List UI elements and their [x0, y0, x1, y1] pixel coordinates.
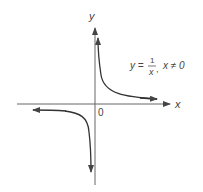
equation-label: y = 1 x , x ≠ 0 [129, 56, 185, 77]
equation-condition: x ≠ 0 [162, 60, 185, 71]
x-axis-label: x [174, 98, 181, 110]
origin-label: 0 [98, 107, 104, 118]
curve-branch-quadrant-1-right [140, 98, 157, 99]
y-axis-label: y [88, 10, 96, 22]
curve-branch-quadrant-3-left [33, 110, 66, 111]
equation-lhs: y = [129, 60, 144, 71]
curve-branch-quadrant-3 [65, 111, 91, 172]
equation-numerator: 1 [150, 56, 155, 65]
equation-denominator: x [148, 67, 154, 77]
reciprocal-function-graph: y x 0 y = 1 x , x ≠ 0 [0, 0, 203, 192]
equation-comma: , [156, 64, 159, 74]
